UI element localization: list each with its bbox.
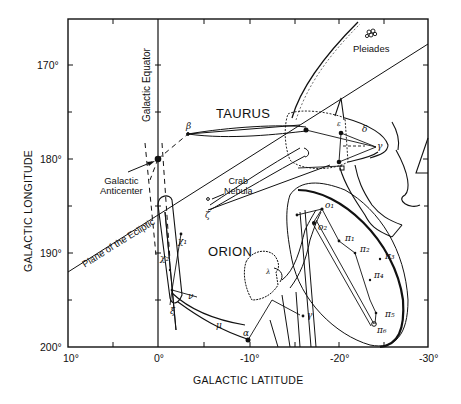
- star-gamma-ori: γ: [307, 310, 312, 320]
- star-mu-ori: μ: [216, 320, 222, 330]
- star-zeta-tau: ζ: [205, 210, 210, 220]
- star-pi3-ori: π₃: [385, 251, 395, 261]
- star-pi4-ori: π₄: [374, 270, 384, 280]
- crab-nebula-label: Crab Nebula: [224, 176, 253, 196]
- anticenter-dot: [155, 156, 162, 163]
- star-gamma-tau: γ: [377, 141, 382, 151]
- star-xi-ori: ξ: [170, 306, 175, 316]
- star-o2-ori: o₂: [318, 222, 327, 232]
- star-pi5-ori: π₅: [385, 309, 395, 319]
- y-tick-180: 180°: [40, 153, 62, 165]
- anticenter-line2: Anticenter: [100, 186, 143, 196]
- star-pi1-ori: π₁: [345, 233, 355, 243]
- orion-label: ORION: [208, 244, 252, 259]
- star-epsilon-tau: ε: [337, 120, 341, 128]
- y-axis-title: GALACTIC LONGITUDE: [22, 150, 34, 272]
- galactic-equator-label: Galactic Equator: [141, 48, 152, 122]
- crab-line2: Nebula: [224, 186, 253, 196]
- orion-stars: [169, 207, 381, 342]
- pleiades-label: Pleiades: [353, 43, 389, 54]
- crab-line1: Crab: [224, 176, 253, 186]
- sky-chart: [0, 0, 461, 404]
- x-tick-minus10: -10°: [240, 352, 259, 364]
- star-nu-ori: ν: [188, 291, 193, 301]
- star-lambda-ori: λ: [266, 268, 270, 276]
- star-pi6-ori: π₆: [377, 325, 387, 335]
- x-tick-minus20: -20°: [330, 352, 349, 364]
- star-pi2-ori: π₂: [360, 244, 370, 254]
- star-o1-ori: o₁: [325, 200, 334, 210]
- x-tick-10: 10°: [63, 352, 79, 364]
- star-delta-tau: δ: [362, 124, 367, 134]
- galactic-anticenter-label: Galactic Anticenter: [100, 176, 143, 196]
- y-tick-170: 170°: [37, 59, 59, 71]
- x-tick-minus30: -30°: [419, 352, 438, 364]
- x-axis-title: GALACTIC LATITUDE: [193, 374, 304, 386]
- star-chi1-ori: χ₁: [178, 236, 187, 246]
- y-tick-200: 200°: [40, 341, 62, 353]
- anticenter-arrow: [128, 161, 155, 172]
- star-alpha-ori: α: [243, 328, 249, 338]
- x-tick-0: 0°: [154, 352, 164, 364]
- star-beta-tau: β: [186, 121, 191, 131]
- orion-club: [158, 196, 250, 340]
- pleiades-icon: [365, 29, 376, 38]
- y-tick-190: 190°: [40, 247, 62, 259]
- taurus-label: TAURUS: [216, 106, 270, 121]
- star-chi2-ori: χ₂: [160, 253, 169, 263]
